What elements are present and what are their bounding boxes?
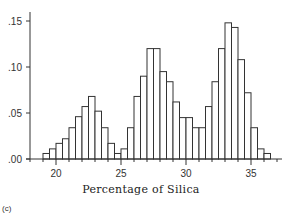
histogram-bar (245, 93, 252, 159)
histogram-bar (50, 149, 57, 159)
histogram-bar (95, 111, 102, 159)
histogram-bar (193, 128, 200, 159)
histogram-bar (264, 153, 271, 159)
y-tick-label: .10 (8, 62, 22, 73)
histogram-bar (141, 76, 148, 159)
histogram-bar (121, 149, 128, 159)
x-tick-label: 30 (180, 168, 192, 179)
histogram-bar (147, 49, 154, 159)
histogram-bar (43, 153, 50, 159)
histogram-bar (69, 128, 76, 159)
histogram-bar (206, 107, 213, 159)
histogram-chart: 20253035 .00.05.10.15 Percentage of Sili… (0, 0, 289, 215)
x-axis-title: Percentage of Silica (82, 183, 200, 196)
histogram-bar (154, 49, 161, 159)
panel-label: (c) (2, 204, 12, 213)
histogram-bar (238, 60, 245, 159)
histogram-bar (108, 143, 115, 159)
histogram-bar (134, 96, 141, 159)
histogram-bar (56, 143, 63, 159)
histogram-bar (180, 118, 187, 159)
histogram-bar (186, 118, 193, 159)
x-tick-label: 25 (115, 168, 127, 179)
x-tick-label: 20 (50, 168, 62, 179)
histogram-bar (115, 153, 122, 159)
histogram-bar (167, 82, 174, 159)
histogram-bar (128, 128, 135, 159)
x-axis-ticks: 20253035 (30, 159, 277, 179)
histogram-bar (160, 72, 167, 159)
histogram-bar (251, 128, 258, 159)
y-tick-label: .00 (8, 154, 22, 165)
histogram-bar (219, 49, 226, 159)
histogram-bar (102, 128, 109, 159)
histogram-bar (82, 107, 89, 159)
histogram-bars (43, 23, 271, 159)
histogram-bar (225, 23, 232, 159)
histogram-bar (232, 27, 239, 159)
histogram-bar (173, 102, 180, 159)
histogram-bar (63, 139, 70, 159)
histogram-bar (199, 128, 206, 159)
y-tick-label: .05 (8, 108, 22, 119)
y-axis-ticks: .00.05.10.15 (8, 16, 30, 165)
histogram-bar (76, 117, 83, 159)
x-tick-label: 35 (245, 168, 257, 179)
histogram-bar (258, 149, 265, 159)
y-tick-label: .15 (8, 16, 22, 27)
histogram-bar (212, 82, 219, 159)
histogram-bar (89, 96, 96, 159)
